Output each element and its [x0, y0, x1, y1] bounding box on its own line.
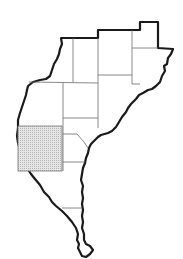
locator-map	[0, 0, 183, 259]
highlighted-county	[18, 126, 62, 171]
